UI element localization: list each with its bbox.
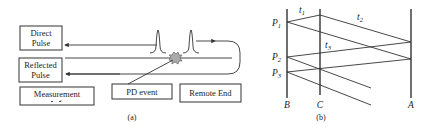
path-p1-a — [287, 22, 411, 59]
path-p3-out — [287, 72, 371, 105]
measurement-box: Measurement — [20, 87, 94, 105]
path-a-p2 — [287, 42, 411, 57]
measurement-label: Measurement — [34, 89, 81, 99]
path-a-p3 — [287, 59, 411, 72]
axis-label-c: C — [317, 100, 324, 110]
path-p2-out — [287, 57, 371, 88]
direct-pulse-label-2: Pulse — [32, 38, 51, 48]
path-c-a — [320, 15, 411, 42]
pulse-waveform-icon — [183, 30, 199, 53]
figure-canvas: Direct Pulse Reflected Pulse Measurement… — [0, 0, 427, 131]
caption-a: (a) — [128, 113, 137, 122]
figure-b: P1 P2 P3 t1 t2 t3 B C A (b) — [271, 5, 414, 122]
direct-pulse-box: Direct Pulse — [20, 26, 62, 50]
time-label-t3: t3 — [325, 40, 332, 51]
cable-loop — [66, 41, 240, 74]
pd-event-pointer — [128, 60, 173, 84]
reflected-pulse-label-1: Reflected — [24, 60, 57, 70]
reflected-pulse-label-2: Pulse — [31, 70, 50, 80]
time-label-t1: t1 — [299, 5, 305, 16]
point-label-p2: P2 — [271, 52, 282, 63]
axis-label-a: A — [407, 100, 414, 110]
remote-end-label: Remote End — [189, 88, 232, 98]
pulse-waveform-icon — [150, 30, 166, 53]
pd-event-label: PD event — [126, 87, 158, 97]
point-label-p3: P3 — [271, 68, 282, 79]
reflected-pulse-box: Reflected Pulse — [19, 58, 62, 82]
path-p1-c — [287, 15, 320, 22]
point-label-p1: P1 — [271, 18, 281, 29]
time-label-t2: t2 — [357, 12, 364, 23]
axis-label-b: B — [284, 100, 290, 110]
figure-a: Direct Pulse Reflected Pulse Measurement… — [19, 26, 241, 122]
caption-b: (b) — [316, 113, 326, 122]
pd-event-burst-icon — [169, 52, 182, 64]
direct-pulse-label-1: Direct — [30, 28, 52, 38]
pd-event-box: PD event — [112, 84, 172, 99]
remote-end-box: Remote End — [180, 84, 241, 102]
